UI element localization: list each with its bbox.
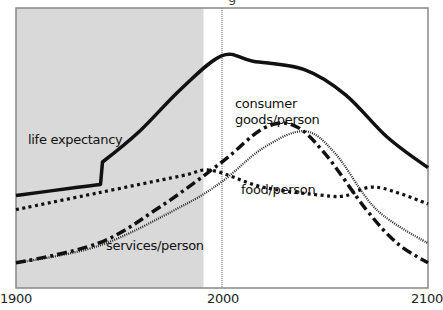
consumer-goods-label-line1: consumer [235,96,297,112]
consumer-goods-label-line2: goods/person [235,112,320,128]
x-tick-2000: 2000 [207,291,239,306]
services-per-person-label: services/person [106,238,204,254]
life-expectancy-label: life expectancy [28,132,122,148]
x-tick-2100: 2100 [411,291,443,306]
chart-title-fragment: g [228,0,236,5]
x-tick-1900: 1900 [0,291,32,306]
food-per-person-label: food/person [241,182,315,198]
